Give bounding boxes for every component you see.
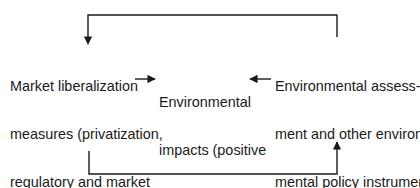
node-text-line: ment and other environ- [275,126,420,142]
node-market-liberalization: Market liberalization measures (privatiz… [10,46,163,188]
node-environmental-impacts: Environmental impacts (positive and nega… [159,62,266,188]
node-text-line: Environmental [159,94,266,110]
node-text-line: measures (privatization, [10,126,163,142]
feedback-arrow-top [88,15,337,44]
node-text-line: impacts (positive [159,142,266,158]
node-text-line: regulatory and market [10,174,163,188]
node-environmental-assessment: Environmental assess- ment and other env… [275,46,420,188]
node-text-line: Market liberalization [10,78,163,94]
node-text-line: mental policy instruments [275,174,420,188]
node-text-line: Environmental assess- [275,78,420,94]
